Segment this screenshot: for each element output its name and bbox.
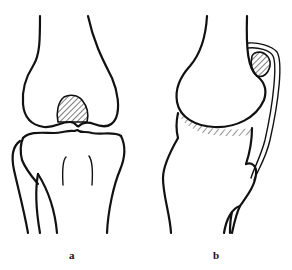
panel-label-b: b [213,250,219,261]
tibia-shaft-b [163,138,178,233]
femur-b [177,16,266,127]
patella-b [251,52,270,77]
patella-a [57,95,88,122]
tibia-a-inner-left [38,174,57,233]
tuberosity-mark-right [89,156,92,185]
tuberosity-mark-left [63,157,66,185]
tibia-a-right-edge [107,136,124,233]
panel-label-a: a [69,250,75,261]
panel-a-drawing [13,16,125,233]
tibia-plateau-b [178,113,252,136]
knee-diagram-svg [0,0,292,270]
knee-joint-figure: a b [0,0,292,270]
tibia-top-b [177,113,179,138]
tibia-plateau-a [23,130,121,138]
tibia-a [21,138,38,184]
panel-b-drawing [163,16,280,233]
